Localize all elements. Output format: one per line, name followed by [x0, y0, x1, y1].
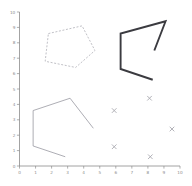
x-tick-label: 9 [163, 170, 166, 175]
x-tick-label: 2 [50, 170, 53, 175]
y-tick-label: 9 [13, 25, 16, 30]
y-tick-label: 3 [13, 117, 16, 122]
y-tick-label: 7 [13, 56, 16, 61]
scatter-series-x-markers [112, 96, 174, 159]
x-tick-label: 5 [98, 170, 101, 175]
x-tick-label: 10 [177, 170, 183, 175]
y-axis-ticks: 012345678910 [10, 10, 20, 169]
x-axis-ticks: 012345678910 [18, 166, 183, 175]
scatter-marker-x [148, 154, 153, 159]
line-series-thick-open-polyline [121, 21, 166, 80]
x-tick-label: 3 [66, 170, 69, 175]
x-tick-label: 8 [147, 170, 150, 175]
scatter-marker-x [112, 144, 117, 149]
y-tick-label: 2 [13, 133, 16, 138]
line-series-dashed-pentagon [45, 26, 95, 68]
x-tick-label: 1 [34, 170, 37, 175]
y-tick-label: 8 [13, 40, 16, 45]
x-tick-label: 7 [131, 170, 134, 175]
scatter-marker-x [112, 108, 117, 113]
line-series-thin-open-polyline [33, 98, 93, 157]
y-tick-label: 4 [13, 102, 16, 107]
y-tick-label: 10 [10, 10, 16, 15]
y-tick-label: 0 [13, 164, 16, 169]
axes-layer [20, 12, 181, 166]
chart-figure: 012345678910 012345678910 [0, 0, 192, 186]
x-tick-label: 4 [82, 170, 85, 175]
x-tick-label: 6 [114, 170, 117, 175]
data-series-layer [33, 21, 174, 159]
y-tick-label: 1 [13, 148, 16, 153]
scatter-marker-x [170, 127, 175, 132]
scatter-marker-x [147, 96, 152, 101]
x-tick-label: 0 [18, 170, 21, 175]
y-tick-label: 5 [13, 87, 16, 92]
chart-canvas: 012345678910 012345678910 [0, 0, 192, 186]
y-tick-label: 6 [13, 71, 16, 76]
